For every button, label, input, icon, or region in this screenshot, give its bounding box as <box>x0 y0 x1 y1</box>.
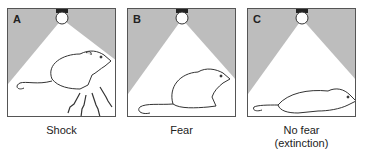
panel-b-caption: Fear <box>127 124 236 137</box>
panel-c-no-fear: C <box>247 8 356 117</box>
no-fear-scene-illustration <box>248 9 356 117</box>
panel-a-letter: A <box>13 13 21 25</box>
panel-b-letter: B <box>133 13 141 25</box>
lamp-bulb-icon <box>56 12 68 24</box>
lamp-bulb-icon <box>176 12 188 24</box>
panel-c-letter: C <box>253 13 261 25</box>
shock-scene-illustration <box>8 9 116 117</box>
panel-c-caption: No fear <box>247 124 356 137</box>
fear-scene-illustration <box>128 9 236 117</box>
lamp-bulb-icon <box>296 12 308 24</box>
panel-a-caption: Shock <box>7 124 116 137</box>
panel-a-shock: A <box>7 8 116 117</box>
panel-c-caption-line2: (extinction) <box>247 137 356 150</box>
panel-b-fear: B <box>127 8 236 117</box>
